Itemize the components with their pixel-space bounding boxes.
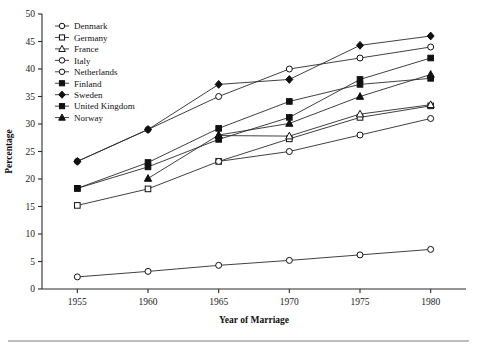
marker-open-square: [75, 203, 81, 209]
y-tick-label: 40: [26, 64, 36, 74]
x-axis-title: Year of Marriage: [219, 315, 289, 325]
marker-filled-diamond: [357, 41, 364, 49]
marker-open-circle: [59, 69, 65, 75]
marker-open-circle: [145, 268, 151, 274]
marker-filled-square: [59, 81, 64, 86]
legend: DenmarkGermanyFranceItalyNetherlandsFinl…: [55, 21, 135, 123]
x-tick-label: 1980: [421, 297, 440, 307]
legend-item-france[interactable]: France: [55, 44, 99, 54]
legend-label: France: [74, 44, 99, 54]
marker-filled-triangle: [427, 71, 434, 78]
series-line: [219, 105, 431, 136]
marker-open-circle: [216, 94, 222, 100]
legend-item-netherlands[interactable]: Netherlands: [55, 67, 118, 77]
marker-open-circle: [59, 23, 65, 29]
marker-filled-square: [357, 77, 363, 83]
y-tick-label: 45: [26, 37, 36, 47]
marker-filled-diamond: [215, 81, 222, 89]
series-group: [74, 32, 434, 280]
marker-open-circle: [357, 252, 363, 258]
legend-item-denmark[interactable]: Denmark: [55, 21, 108, 31]
series-norway: [144, 71, 434, 182]
y-tick-label: 15: [26, 202, 36, 212]
marker-filled-diamond: [74, 158, 81, 166]
marker-filled-diamond: [286, 76, 293, 84]
y-tick-label: 10: [26, 229, 36, 239]
marker-open-circle: [59, 58, 65, 64]
legend-item-germany[interactable]: Germany: [55, 33, 108, 43]
y-tick-label: 50: [26, 9, 36, 19]
marker-open-circle: [286, 257, 292, 263]
marker-open-circle: [357, 132, 363, 138]
marker-open-circle: [428, 246, 434, 252]
marker-open-square: [59, 35, 64, 40]
marker-open-circle: [428, 44, 434, 50]
marker-filled-square: [59, 104, 64, 109]
marker-filled-square: [145, 164, 151, 170]
series-italy: [74, 246, 433, 280]
series-germany: [75, 103, 434, 208]
y-tick-label: 25: [26, 147, 36, 157]
legend-item-norway[interactable]: Norway: [55, 113, 103, 123]
line-chart-canvas: 0510152025303540455019551960196519701975…: [0, 0, 477, 350]
legend-item-finland[interactable]: Finland: [55, 79, 102, 89]
marker-filled-diamond: [145, 126, 152, 134]
y-tick-label: 20: [26, 174, 36, 184]
y-axis-title: Percentage: [4, 129, 14, 174]
x-tick-label: 1960: [139, 297, 158, 307]
marker-open-triangle: [59, 45, 66, 51]
legend-label: Denmark: [74, 21, 108, 31]
series-line: [77, 249, 430, 277]
legend-label: Sweden: [74, 90, 103, 100]
y-tick-label: 5: [30, 257, 35, 267]
legend-label: Norway: [74, 113, 103, 123]
marker-filled-diamond: [59, 91, 65, 98]
legend-label: Netherlands: [74, 67, 118, 77]
series-finland: [75, 76, 434, 192]
series-united-kingdom: [75, 55, 434, 191]
marker-open-circle: [428, 116, 434, 122]
x-tick-label: 1975: [351, 297, 370, 307]
x-tick-label: 1965: [209, 297, 228, 307]
legend-label: Finland: [74, 79, 102, 89]
marker-filled-diamond: [427, 32, 434, 40]
series-france: [215, 101, 434, 139]
series-sweden: [74, 32, 434, 165]
legend-label: Germany: [74, 33, 108, 43]
marker-open-circle: [74, 274, 80, 280]
series-netherlands: [216, 116, 434, 165]
legend-item-united-kingdom[interactable]: United Kingdom: [55, 101, 135, 111]
marker-filled-square: [287, 99, 293, 105]
marker-filled-triangle: [144, 175, 151, 182]
y-tick-label: 35: [26, 92, 36, 102]
legend-item-italy[interactable]: Italy: [55, 56, 91, 66]
x-tick-label: 1970: [280, 297, 299, 307]
y-tick-label: 30: [26, 119, 36, 129]
marker-filled-square: [75, 186, 81, 192]
chart-figure: 0510152025303540455019551960196519701975…: [0, 0, 477, 350]
legend-label: Italy: [74, 56, 91, 66]
marker-open-circle: [216, 262, 222, 268]
marker-open-circle: [216, 158, 222, 164]
series-line: [77, 106, 430, 206]
y-tick-label: 0: [30, 284, 35, 294]
marker-filled-square: [428, 55, 434, 61]
marker-open-circle: [286, 149, 292, 155]
marker-open-circle: [286, 66, 292, 72]
marker-open-circle: [357, 55, 363, 61]
marker-open-square: [145, 186, 151, 192]
marker-filled-triangle: [59, 114, 66, 120]
legend-label: United Kingdom: [74, 101, 135, 111]
legend-item-sweden[interactable]: Sweden: [55, 90, 103, 100]
x-tick-label: 1955: [68, 297, 87, 307]
